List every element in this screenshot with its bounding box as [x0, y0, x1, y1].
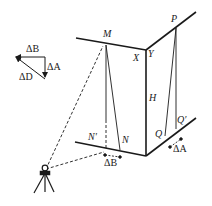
label-q: Q [155, 128, 163, 139]
legend-delta-d-label: ΔD [19, 71, 33, 82]
legend-delta-a-label: ΔA [47, 61, 61, 72]
label-n: N [121, 134, 130, 145]
label-delta-b-bottom: ΔB [104, 157, 117, 168]
theodolite-tripod-icon [34, 165, 54, 193]
plumb-lines [106, 28, 176, 150]
bottom-right-edge [146, 118, 196, 156]
legend-delta-b-label: ΔB [26, 43, 39, 54]
p-to-q-line [165, 28, 176, 136]
bottom-left-edge [75, 142, 146, 156]
m-to-n-line [106, 45, 120, 150]
label-h: H [148, 92, 157, 103]
label-delta-a-bottom: ΔA [173, 143, 187, 154]
building-corner-diagram: ΔB ΔA ΔD M X Y P H N′ N Q Q′ ΔB [0, 0, 212, 206]
label-x: X [132, 52, 140, 63]
label-y: Y [148, 48, 155, 59]
label-p: P [170, 13, 177, 24]
sight-line-to-n-prime [46, 152, 104, 169]
label-q-prime: Q′ [177, 114, 187, 125]
top-left-edge [76, 38, 146, 50]
label-n-prime: N′ [87, 131, 98, 142]
label-m: M [102, 28, 112, 39]
